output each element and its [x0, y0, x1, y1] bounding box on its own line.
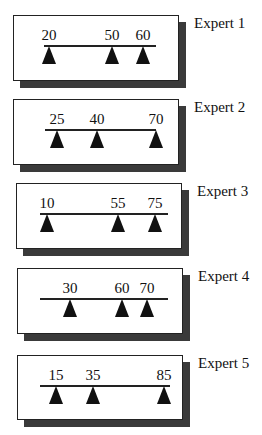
- triangle-marker-icon: [90, 130, 104, 148]
- marker-value: 55: [111, 196, 126, 211]
- marker-value: 70: [140, 281, 155, 296]
- marker-value: 85: [157, 368, 172, 383]
- triangle-marker-icon: [149, 130, 163, 148]
- triangle-marker-icon: [49, 386, 63, 404]
- triangle-marker-icon: [136, 46, 150, 64]
- triangle-marker-icon: [63, 299, 77, 317]
- expert-label: Expert 5: [198, 356, 249, 371]
- expert-label: Expert 3: [197, 184, 248, 199]
- triangle-marker-icon: [105, 46, 119, 64]
- triangle-marker-icon: [40, 214, 54, 232]
- expert-label: Expert 2: [194, 100, 245, 115]
- marker-value: 60: [115, 281, 130, 296]
- marker-value: 25: [50, 112, 65, 127]
- triangle-marker-icon: [148, 214, 162, 232]
- triangle-marker-icon: [42, 46, 56, 64]
- marker-value: 50: [105, 28, 120, 43]
- marker-value: 60: [136, 28, 151, 43]
- marker-value: 35: [86, 368, 101, 383]
- marker-value: 10: [40, 196, 55, 211]
- panel-box: [17, 268, 183, 334]
- marker-value: 20: [42, 28, 57, 43]
- triangle-marker-icon: [111, 214, 125, 232]
- triangle-marker-icon: [86, 386, 100, 404]
- marker-value: 30: [63, 281, 78, 296]
- triangle-marker-icon: [140, 299, 154, 317]
- panel-box: [13, 15, 179, 81]
- expert-label: Expert 1: [194, 16, 245, 31]
- marker-value: 40: [90, 112, 105, 127]
- triangle-marker-icon: [157, 386, 171, 404]
- marker-value: 15: [49, 368, 64, 383]
- triangle-marker-icon: [50, 130, 64, 148]
- triangle-marker-icon: [115, 299, 129, 317]
- marker-value: 75: [148, 196, 163, 211]
- marker-value: 70: [149, 112, 164, 127]
- expert-label: Expert 4: [198, 269, 249, 284]
